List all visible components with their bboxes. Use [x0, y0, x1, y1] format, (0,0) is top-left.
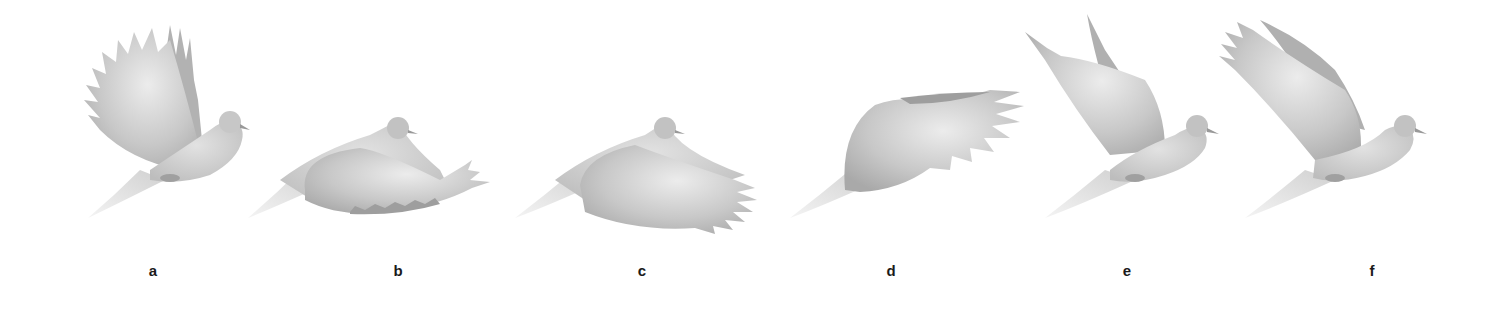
panel-label-f: f: [1362, 262, 1382, 279]
panel-label-a: a: [143, 262, 163, 279]
dove-downstroke-illustration: [240, 0, 500, 230]
panel-label-d: d: [881, 262, 901, 279]
dove-bottom-stroke-illustration: [780, 0, 1040, 230]
panel-label-e: e: [1117, 262, 1137, 279]
panel-f: [1215, 0, 1435, 316]
panel-b: [240, 0, 500, 316]
dove-wings-raised-illustration: [1215, 0, 1435, 230]
dove-midstroke-illustration: [505, 0, 765, 240]
dove-upstroke-illustration: [1015, 0, 1235, 230]
panel-d: [780, 0, 1040, 316]
panel-label-b: b: [388, 262, 408, 279]
panel-label-c: c: [632, 262, 652, 279]
panel-a: [70, 0, 260, 316]
dove-wings-up-illustration: [70, 0, 260, 230]
